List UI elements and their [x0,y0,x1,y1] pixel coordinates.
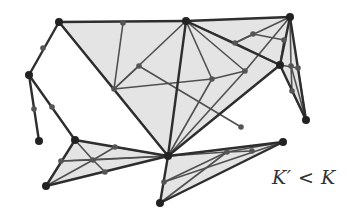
midpoint-vertex [102,169,108,175]
midpoint-vertex [90,157,96,163]
vertex [276,61,284,69]
midpoint-vertex [295,65,301,71]
vertex [279,138,287,146]
midpoint-vertex [40,45,46,51]
midpoint-vertex [31,106,37,112]
midpoint-vertex [249,148,255,154]
midpoint-vertex [242,68,248,74]
relation-label: K′ < K [272,166,336,188]
midpoint-vertex [111,86,117,92]
midpoint-vertex [49,104,55,110]
midpoint-vertex [281,37,287,43]
vertex [42,182,50,190]
midpoint-vertex [288,63,294,69]
vertex [286,13,294,21]
midpoint-vertex [238,124,244,130]
vertex [164,152,172,160]
midpoint-vertex [136,63,142,69]
inner-edge [227,151,252,152]
vertex [55,18,63,26]
vertex [71,136,79,144]
vertex [302,116,310,124]
midpoint-vertex [250,31,256,37]
midpoint-vertex [161,179,167,185]
vertex [182,17,190,25]
face [46,140,168,186]
vertex [25,71,33,79]
vertex [156,199,164,207]
midpoint-vertex [120,20,126,26]
midpoint-vertex [232,40,238,46]
midpoint-vertex [112,144,118,150]
midpoint-vertex [209,76,215,82]
midpoint-vertex [58,158,64,164]
vertex [35,137,43,145]
midpoint-vertex [289,88,295,94]
midpoint-vertex [224,149,230,155]
